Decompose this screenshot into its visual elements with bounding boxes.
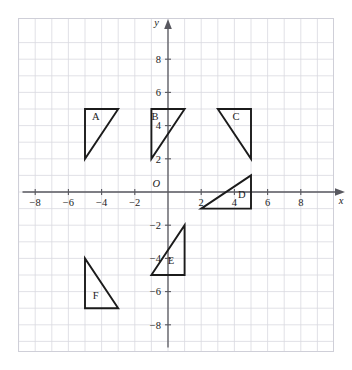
shape-labels: ABCDEF	[92, 111, 246, 301]
cartesian-plane: −8−6−4−224688642−2−4−6−8 Oxy ABCDEF	[0, 0, 352, 370]
y-tick-label: −8	[150, 320, 161, 331]
triangle-label-f: F	[93, 290, 99, 301]
y-tick-label: 2	[156, 154, 161, 165]
triangle-label-a: A	[92, 111, 100, 122]
y-tick-label: −6	[150, 286, 161, 297]
y-axis-label: y	[153, 17, 159, 28]
grid-lines	[19, 19, 334, 352]
triangle-label-b: B	[152, 111, 159, 122]
x-tick-label: −8	[30, 197, 41, 208]
y-tick-label: 8	[156, 54, 161, 65]
x-tick-label: 4	[232, 197, 238, 208]
grid-frame	[19, 19, 334, 352]
triangle-label-e: E	[168, 255, 174, 266]
x-axis-label: x	[338, 195, 344, 206]
y-tick-label: 4	[156, 120, 162, 131]
x-tick-label: −2	[129, 197, 140, 208]
x-tick-label: 6	[265, 197, 270, 208]
y-tick-label: 6	[156, 87, 161, 98]
x-tick-label: −6	[63, 197, 74, 208]
triangle-label-d: D	[238, 189, 246, 200]
axes	[23, 19, 346, 348]
origin-label: O	[152, 178, 160, 189]
x-tick-label: 8	[298, 197, 303, 208]
y-tick-label: −2	[150, 220, 161, 231]
triangle-label-c: C	[233, 111, 240, 122]
x-tick-label: −4	[96, 197, 108, 208]
coordinate-grid-figure: · · · · · · · · · · · · −8−6−4−224688642…	[0, 0, 352, 370]
